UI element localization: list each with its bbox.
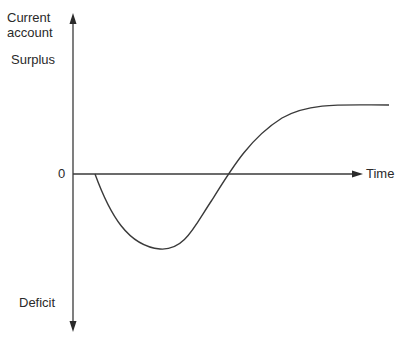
y-axis-down-arrow-icon	[70, 321, 77, 332]
x-axis-right-arrow-icon	[352, 171, 363, 178]
y-axis-up-arrow-icon	[70, 13, 77, 24]
j-curve-line	[95, 105, 389, 249]
j-curve-plot	[0, 0, 408, 345]
